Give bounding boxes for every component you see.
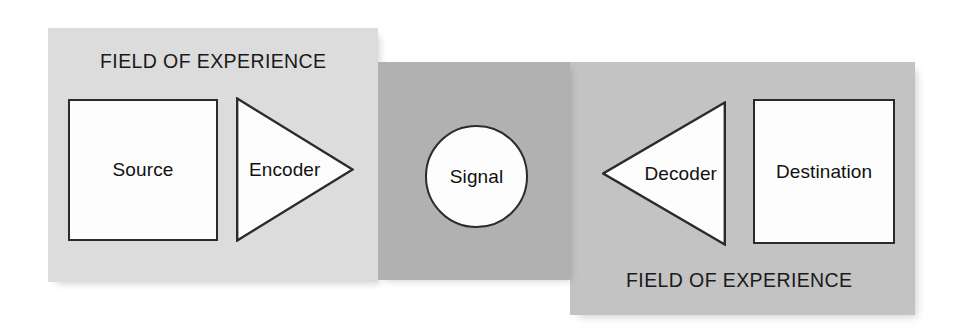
signal-node-label: Signal	[450, 166, 503, 188]
receiver-field-of-experience-label: FIELD OF EXPERIENCE	[626, 269, 852, 292]
diagram-canvas: FIELD OF EXPERIENCE FIELD OF EXPERIENCE …	[0, 0, 972, 333]
decoder-node-label: Decoder	[644, 163, 717, 185]
source-node: Source	[68, 99, 218, 241]
sender-field-of-experience-label: FIELD OF EXPERIENCE	[100, 50, 326, 73]
source-node-label: Source	[113, 159, 174, 181]
destination-node-label: Destination	[776, 161, 872, 183]
decoder-node: Decoder	[602, 101, 726, 246]
destination-node: Destination	[753, 99, 895, 244]
encoder-node-label: Encoder	[249, 159, 320, 181]
encoder-node: Encoder	[236, 97, 354, 242]
signal-node: Signal	[425, 125, 528, 228]
